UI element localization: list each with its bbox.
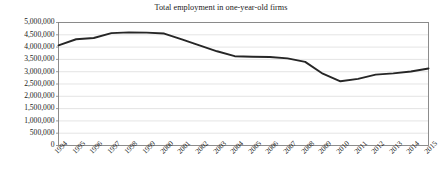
y-axis-tick-label: 4,000,000 — [24, 43, 54, 51]
y-axis-tick-label: 3,500,000 — [24, 55, 54, 63]
y-axis-tick-label: 2,000,000 — [24, 92, 54, 100]
y-axis-tick-label: 4,500,000 — [24, 31, 54, 39]
series-line — [59, 32, 429, 81]
gridlines-group — [59, 23, 429, 134]
chart-container: Total employment in one-year-old firms 0… — [0, 0, 442, 182]
y-axis-tick-label: 3,000,000 — [24, 68, 54, 76]
data-series-group — [59, 32, 429, 81]
y-axis-tick-label: 500,000 — [30, 129, 55, 137]
y-axis-tick-label: 5,000,000 — [24, 18, 54, 26]
y-axis-tick-label: 1,500,000 — [24, 104, 54, 112]
y-axis-tick-label: 1,000,000 — [24, 117, 54, 125]
y-axis-tick-label: 2,500,000 — [24, 80, 54, 88]
